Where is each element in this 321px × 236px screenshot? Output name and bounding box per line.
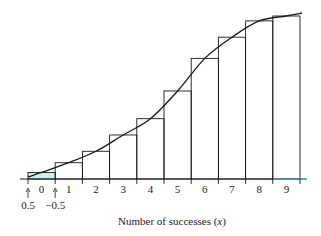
x-tick-label: 5	[175, 183, 181, 195]
bar-7	[218, 37, 245, 179]
bar-5	[164, 91, 191, 179]
x-tick-label: 6	[202, 183, 208, 195]
x-tick-label: 2	[93, 183, 99, 195]
edge-annotation-label: 0.5	[21, 199, 35, 211]
x-axis-label: Number of successes (x)	[118, 215, 226, 228]
x-tick-label: 9	[284, 183, 290, 195]
bar-6	[191, 58, 218, 179]
x-tick-label: 1	[66, 183, 72, 195]
x-tick-label: 4	[148, 183, 154, 195]
bar-1	[55, 163, 82, 179]
histogram-bars	[28, 16, 300, 179]
x-axis-ticks: 0123456789	[28, 179, 300, 195]
edge-annotation-label: −0.5	[45, 199, 65, 211]
x-tick-label: 8	[256, 183, 262, 195]
bar-8	[246, 21, 273, 179]
bar-4	[137, 119, 164, 179]
x-tick-label: 0	[39, 183, 45, 195]
x-tick-label: 7	[229, 183, 235, 195]
cumulative-histogram-chart: 0123456789 0.5−0.5 Number of successes (…	[0, 0, 321, 236]
x-tick-label: 3	[120, 183, 126, 195]
bar-9	[273, 16, 300, 179]
smooth-curve	[28, 13, 302, 177]
